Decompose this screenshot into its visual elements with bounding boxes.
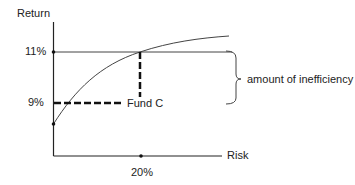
y-tick-9-label: 9% bbox=[28, 96, 44, 108]
curve-start-dot bbox=[52, 122, 56, 126]
x-axis-label: Risk bbox=[227, 149, 248, 161]
efficient-frontier-diagram: Return 11% 9% Fund C amount of inefficie… bbox=[0, 0, 355, 185]
tick-11-dot bbox=[52, 50, 56, 54]
efficient-frontier-curve bbox=[54, 36, 230, 124]
y-axis-label: Return bbox=[17, 7, 50, 19]
diagram-graphics bbox=[0, 0, 355, 185]
y-tick-11-label: 11% bbox=[25, 45, 46, 57]
brace-label: amount of inefficiency bbox=[247, 73, 353, 85]
x-tick-20-label: 20% bbox=[131, 166, 153, 178]
fund-c-label: Fund C bbox=[127, 97, 163, 109]
tick-20-dot bbox=[139, 154, 143, 158]
inefficiency-brace bbox=[226, 51, 241, 104]
